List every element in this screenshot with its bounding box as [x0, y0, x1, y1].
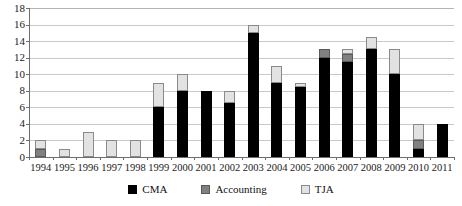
bar-stack	[248, 8, 259, 157]
bar-segment-cma	[177, 91, 188, 157]
bar-segment-tja	[389, 49, 400, 74]
bar-segment-cma	[248, 33, 259, 157]
x-axis-tick-mark	[336, 157, 337, 160]
x-axis-tick-label: 2004	[265, 162, 289, 174]
bar-segment-tja	[271, 66, 282, 83]
bar-segment-accounting	[342, 54, 353, 62]
x-axis-tick-mark	[53, 157, 54, 160]
legend-item-tja: TJA	[301, 184, 334, 195]
bar-segment-tja	[59, 149, 70, 157]
bar-stack	[413, 8, 424, 157]
x-axis-tick-label: 2009	[383, 162, 407, 174]
bar-stack	[271, 8, 282, 157]
bar-segment-tja	[413, 124, 424, 141]
bar-segment-accounting	[319, 49, 330, 57]
bar-stack	[83, 8, 94, 157]
bar-segment-tja	[153, 83, 164, 108]
x-axis-tick-mark	[289, 157, 290, 160]
light-gray-square-swatch	[301, 185, 310, 194]
bar-segment-tja	[366, 37, 377, 49]
bar-stack	[201, 8, 212, 157]
x-axis-tick-mark	[430, 157, 431, 160]
x-axis-tick-mark	[454, 157, 455, 160]
x-axis-tick-label: 1997	[100, 162, 124, 174]
y-axis-tick-label: 8	[0, 85, 25, 96]
legend-item-accounting: Accounting	[201, 184, 266, 195]
gray-square-swatch	[201, 185, 210, 194]
x-axis-tick-mark	[123, 157, 124, 160]
bar-stack	[389, 8, 400, 157]
y-axis-tick-label: 18	[0, 3, 25, 14]
bar-segment-cma	[271, 83, 282, 158]
x-axis-tick-label: 2001	[194, 162, 218, 174]
x-axis-tick-label: 1999	[147, 162, 171, 174]
x-axis-tick-mark	[265, 157, 266, 160]
legend-label: TJA	[315, 184, 334, 195]
black-square-swatch	[128, 185, 137, 194]
bar-segment-accounting	[413, 140, 424, 148]
x-axis-tick-mark	[218, 157, 219, 160]
bar-stack	[130, 8, 141, 157]
bar-segment-cma	[366, 49, 377, 157]
y-axis-tick-label: 12	[0, 52, 25, 63]
x-axis-tick-mark	[312, 157, 313, 160]
x-axis-tick-mark	[242, 157, 243, 160]
bar-segment-tja	[177, 74, 188, 91]
bar-stack	[342, 8, 353, 157]
legend-label: Accounting	[215, 184, 266, 195]
x-axis-tick-label: 2010	[407, 162, 431, 174]
bar-segment-tja	[224, 91, 235, 103]
x-axis-tick-mark	[407, 157, 408, 160]
bar-segment-tja	[342, 49, 353, 53]
bar-segment-cma	[201, 91, 212, 157]
bar-stack	[106, 8, 117, 157]
y-axis-tick-label: 4	[0, 118, 25, 129]
x-axis-tick-mark	[194, 157, 195, 160]
bar-stack	[153, 8, 164, 157]
bar-stack	[59, 8, 70, 157]
x-axis-tick-label: 2003	[242, 162, 266, 174]
bar-segment-cma	[437, 124, 448, 157]
bar-segment-cma	[342, 62, 353, 157]
x-axis-tick-label: 1995	[53, 162, 77, 174]
bar-stack	[35, 8, 46, 157]
bars-layer	[29, 8, 454, 157]
x-axis-tick-mark	[76, 157, 77, 160]
x-axis-tick-label: 1996	[76, 162, 100, 174]
x-axis-tick-mark	[147, 157, 148, 160]
bar-segment-cma	[295, 87, 306, 157]
stacked-bar-chart: 024681012141618 199419951996199719981999…	[0, 0, 462, 206]
bar-stack	[319, 8, 330, 157]
x-axis-tick-label: 2000	[171, 162, 195, 174]
x-axis-tick-mark	[100, 157, 101, 160]
bar-segment-tja	[83, 132, 94, 157]
x-axis-tick-mark	[383, 157, 384, 160]
y-axis-tick-label: 6	[0, 102, 25, 113]
bar-segment-cma	[389, 74, 400, 157]
bar-stack	[295, 8, 306, 157]
x-axis-tick-label: 2008	[360, 162, 384, 174]
y-axis-tick-label: 14	[0, 36, 25, 47]
x-axis-tick-mark	[171, 157, 172, 160]
legend-item-cma: CMA	[128, 184, 167, 195]
bar-segment-tja	[295, 83, 306, 87]
x-axis-tick-label: 2006	[312, 162, 336, 174]
bar-segment-tja	[35, 140, 46, 148]
y-axis-tick-label: 16	[0, 19, 25, 30]
bar-segment-tja	[106, 140, 117, 157]
y-axis-tick-label: 2	[0, 135, 25, 146]
x-axis-tick-label: 2007	[336, 162, 360, 174]
x-axis-tick-label: 2002	[218, 162, 242, 174]
chart-legend: CMAAccountingTJA	[0, 184, 462, 195]
y-axis-tick-label: 0	[0, 152, 25, 163]
bar-stack	[224, 8, 235, 157]
x-axis-tick-label: 2011	[430, 162, 454, 174]
bar-segment-cma	[319, 58, 330, 157]
bar-segment-tja	[130, 140, 141, 157]
bar-segment-tja	[248, 25, 259, 33]
bar-segment-accounting	[35, 149, 46, 157]
bar-stack	[366, 8, 377, 157]
bar-segment-cma	[153, 107, 164, 157]
x-axis-tick-label: 1998	[123, 162, 147, 174]
bar-stack	[437, 8, 448, 157]
